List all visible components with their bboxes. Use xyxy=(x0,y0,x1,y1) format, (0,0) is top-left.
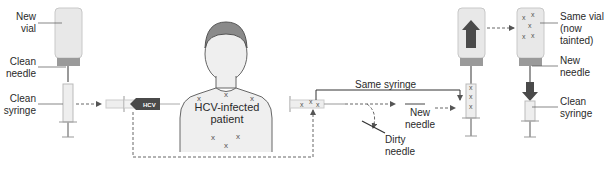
vial-with-hcv xyxy=(458,8,485,136)
label-new-needle-right: Newneedle xyxy=(560,55,590,79)
svg-text:x: x xyxy=(224,141,228,150)
hcv-down-arrow xyxy=(522,82,538,101)
svg-text:x: x xyxy=(309,98,313,105)
svg-text:x: x xyxy=(236,132,240,141)
label-patient: HCV-infectedpatient xyxy=(192,101,262,125)
svg-text:x: x xyxy=(531,11,535,18)
label-clean-syringe-left: Cleansyringe xyxy=(0,93,36,117)
hcv-transmission-diagram: x x x x x x xxx xxx xyxy=(0,0,615,173)
label-clean-needle-left: Cleanneedle xyxy=(0,56,36,80)
dirty-needle xyxy=(362,121,385,133)
svg-text:x: x xyxy=(211,133,215,142)
label-same-syringe: Same syringe xyxy=(355,79,416,91)
svg-text:HCV: HCV xyxy=(143,102,156,108)
hcv-infected-patient xyxy=(180,22,272,152)
svg-text:x: x xyxy=(224,90,228,99)
svg-text:x: x xyxy=(522,33,526,40)
svg-text:x: x xyxy=(469,93,473,100)
label-new-needle-mid: Newneedle xyxy=(405,107,435,131)
label-same-vial: Same vial(now tainted) xyxy=(560,11,615,47)
svg-text:x: x xyxy=(300,101,304,108)
svg-text:x: x xyxy=(469,84,473,91)
svg-text:x: x xyxy=(522,14,526,21)
label-clean-syringe-right: Cleansyringe xyxy=(560,96,592,120)
same-syringe-arrow xyxy=(316,90,460,100)
label-new-vial: Newvial xyxy=(0,11,36,35)
svg-text:x: x xyxy=(528,22,532,29)
svg-text:x: x xyxy=(316,101,320,108)
new-vial-left xyxy=(55,8,82,82)
svg-text:x: x xyxy=(531,32,535,39)
svg-text:x: x xyxy=(469,103,473,110)
label-dirty-needle: Dirtyneedle xyxy=(385,134,415,158)
clean-syringe-left xyxy=(59,84,77,137)
